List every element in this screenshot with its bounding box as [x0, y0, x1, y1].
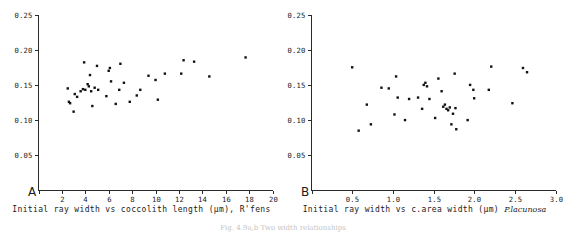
data-point [434, 117, 436, 119]
data-point [522, 67, 524, 69]
data-point [388, 87, 390, 89]
x-tick-label: 20 [269, 195, 278, 204]
data-point [74, 93, 76, 95]
data-point [447, 109, 449, 111]
panel-letter-b: B [301, 185, 309, 199]
y-tick-label: 0.05 [287, 151, 305, 160]
data-point [76, 96, 78, 98]
data-point [449, 106, 451, 108]
x-axis-caption-b-text: Initial ray width vs c.area width (µm) [303, 205, 505, 214]
data-point [442, 106, 444, 108]
data-point [89, 74, 91, 76]
x-tick-label: 12 [175, 195, 184, 204]
y-tick-label: 0.10 [287, 116, 305, 125]
x-tick-label: 1.5 [428, 195, 442, 204]
axes-a [39, 15, 273, 191]
scatter-plot-a: 0.050.100.150.200.25 2468101214161820 A [0, 0, 283, 234]
x-tick-label: 2.5 [509, 195, 523, 204]
y-tick-label: 0.20 [14, 46, 32, 55]
y-ticks-b: 0.050.100.150.200.25 [287, 11, 311, 160]
data-point [147, 75, 149, 77]
data-point [444, 103, 446, 105]
x-tick-label: 18 [245, 195, 254, 204]
data-point [408, 98, 410, 100]
data-point [469, 84, 471, 86]
data-point [366, 103, 368, 105]
data-point [96, 65, 98, 67]
data-point [180, 72, 182, 74]
data-point [404, 119, 406, 121]
data-point [526, 71, 528, 73]
y-tick-label: 0.10 [14, 116, 32, 125]
panel-b: 0.050.100.150.200.25 0.51.01.52.02.53.0 … [283, 0, 566, 234]
x-tick-label: 4 [83, 195, 88, 204]
data-point [109, 67, 111, 69]
x-tick-label: 8 [130, 195, 135, 204]
data-point [67, 87, 69, 89]
y-ticks-a: 0.050.100.150.200.25 [14, 11, 38, 160]
data-point [86, 83, 88, 85]
data-point [119, 63, 121, 65]
data-point [351, 66, 353, 68]
species-name-b: P.lacunosa [504, 205, 546, 214]
y-tick-label: 0.20 [287, 46, 305, 55]
data-point [428, 98, 430, 100]
data-point [454, 107, 456, 109]
data-point [380, 87, 382, 89]
x-ticks-b: 0.51.01.52.02.53.0 [313, 191, 564, 205]
data-point [488, 89, 490, 91]
data-point [357, 129, 359, 131]
data-point [193, 60, 195, 62]
data-point [466, 119, 468, 121]
x-axis-caption-b: Initial ray width vs c.area width (µm) P… [283, 205, 566, 214]
data-point [455, 128, 457, 130]
x-axis-caption-a-text: Initial ray width vs coccolith length (µ… [12, 205, 270, 214]
data-point [182, 59, 184, 61]
data-point [511, 102, 513, 104]
data-point [115, 103, 117, 105]
data-point [164, 72, 166, 74]
x-tick-label: 3.0 [550, 195, 564, 204]
data-point [72, 110, 74, 112]
y-tick-label: 0.25 [287, 11, 305, 20]
data-point [88, 85, 90, 87]
data-point [136, 94, 138, 96]
data-point [437, 77, 439, 79]
y-tick-label: 0.05 [14, 151, 32, 160]
data-point [105, 95, 107, 97]
data-point [450, 123, 452, 125]
scatter-plot-b: 0.050.100.150.200.25 0.51.01.52.02.53.0 … [283, 0, 566, 234]
data-point [490, 65, 492, 67]
data-point [91, 105, 93, 107]
data-point [472, 89, 474, 91]
data-point [90, 90, 92, 92]
x-tick-label: 16 [222, 195, 231, 204]
data-point [108, 70, 110, 72]
data-points-b [351, 65, 528, 131]
data-point [426, 85, 428, 87]
x-tick-label: 6 [107, 195, 112, 204]
data-point [244, 56, 246, 58]
data-point [397, 96, 399, 98]
panel-letter-a: A [28, 185, 37, 199]
data-point [97, 89, 99, 91]
data-point [423, 84, 425, 86]
data-point [452, 113, 454, 115]
panel-a: 0.050.100.150.200.25 2468101214161820 A … [0, 0, 283, 234]
y-tick-label: 0.15 [287, 81, 305, 90]
figure-container: 0.050.100.150.200.25 2468101214161820 A … [0, 0, 566, 234]
x-tick-label: 2 [60, 195, 65, 204]
data-point [93, 87, 95, 89]
y-tick-label: 0.15 [14, 81, 32, 90]
data-point [82, 88, 84, 90]
x-tick-label: 2.0 [468, 195, 482, 204]
data-point [69, 102, 71, 104]
x-axis-caption-a: Initial ray width vs coccolith length (µ… [0, 205, 283, 214]
data-point [417, 96, 419, 98]
data-point [84, 89, 86, 91]
x-ticks-a: 2468101214161820 [40, 191, 279, 205]
data-point [473, 97, 475, 99]
axes-b [312, 15, 556, 191]
data-point [123, 82, 125, 84]
data-point [157, 98, 159, 100]
